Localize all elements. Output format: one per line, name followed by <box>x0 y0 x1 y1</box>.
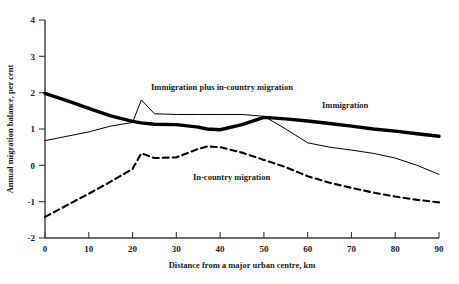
y-tick-label: 2 <box>31 88 36 98</box>
x-tick-label: 50 <box>259 244 269 254</box>
y-tick-label: 1 <box>31 124 36 134</box>
series-annotation-label: Immigration plus in-country migration <box>151 82 293 92</box>
x-tick-label: 80 <box>391 244 401 254</box>
series-annotation-label: Immigration <box>322 100 369 110</box>
x-tick-label: 90 <box>435 244 445 254</box>
x-axis-ticks: 0102030405060708090 <box>43 232 444 254</box>
y-axis-ticks: -2-101234 <box>28 15 46 243</box>
x-tick-label: 60 <box>303 244 313 254</box>
chart-annotations: Immigration plus in-country migrationImm… <box>151 82 369 182</box>
chart-series-group <box>45 93 439 217</box>
x-tick-label: 30 <box>172 244 182 254</box>
x-tick-label: 20 <box>128 244 138 254</box>
y-tick-label: -1 <box>28 197 36 207</box>
x-tick-label: 0 <box>43 244 48 254</box>
chart-figure: -2-101234 0102030405060708090 Immigratio… <box>0 0 459 284</box>
y-tick-label: 0 <box>31 161 36 171</box>
x-axis-title: Distance from a major urban centre, km <box>169 260 316 270</box>
y-axis-title: Annual migration balance, per cent <box>5 65 15 194</box>
series-annotation-label: In-country migration <box>193 172 270 182</box>
y-tick-label: 4 <box>31 15 36 25</box>
migration-line-chart: -2-101234 0102030405060708090 Immigratio… <box>0 0 459 284</box>
y-tick-label: 3 <box>31 52 36 62</box>
y-tick-label: -2 <box>28 233 36 243</box>
x-tick-label: 10 <box>84 244 94 254</box>
x-tick-label: 70 <box>347 244 357 254</box>
x-tick-label: 40 <box>216 244 226 254</box>
series-line-immigration-plus-in-country-migration <box>45 100 439 174</box>
